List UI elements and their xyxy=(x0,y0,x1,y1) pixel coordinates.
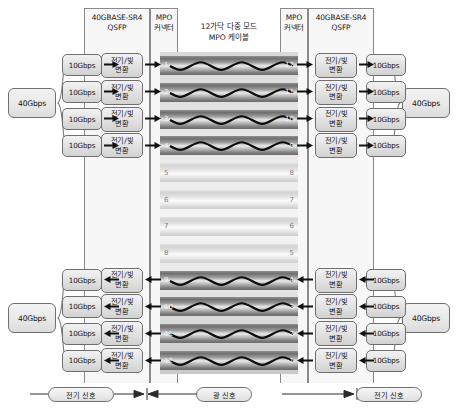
mpo-left-title-line2: 커넥터 xyxy=(150,23,178,33)
converter-box-bottom_right-0-line: 전기/빛 xyxy=(325,270,348,280)
fiber-number-right-4: 4 xyxy=(290,277,294,284)
converter-box-top_right-3-line: 변환 xyxy=(325,146,348,156)
fiber-strand-9: 94 xyxy=(160,271,298,290)
arrow-converter-to-lane-bottom_right-3 xyxy=(359,357,374,364)
converter-box-bottom_right-1-line: 변환 xyxy=(325,307,348,317)
fiber-number-right-7: 7 xyxy=(290,196,294,203)
diagram-canvas: 40GBASE-SR4 QSFP MPO 커넥터 12가닥 다중 모드 MPO … xyxy=(0,0,458,409)
arrow-converter-to-cable-bottom_left-0 xyxy=(145,276,161,283)
qsfp-right-title: 40GBASE-SR4 QSFP xyxy=(308,13,374,32)
arrow-lane-to-converter-top_left-0 xyxy=(104,61,119,68)
mpo-right-title-line2: 커넥터 xyxy=(280,23,308,33)
lane-box-bottom_left-2: 10Gbps xyxy=(62,323,102,345)
arrow-cable-to-converter-top_right-3 xyxy=(297,142,313,149)
arrow-converter-to-lane-top_right-1 xyxy=(359,88,374,95)
mpo-right-title-line1: MPO xyxy=(280,13,308,23)
converter-box-top_right-1-line: 변환 xyxy=(325,92,348,102)
fiber-number-right-2: 2 xyxy=(290,330,294,337)
fiber-number-left-5: 5 xyxy=(164,169,168,176)
fiber-strand-2: 211 xyxy=(160,83,298,102)
qsfp-right-title-line2: QSFP xyxy=(308,23,374,33)
qsfp-right-title-line1: 40GBASE-SR4 xyxy=(308,13,374,23)
arrow-cable-to-converter-top_right-0 xyxy=(297,61,313,68)
arrow-converter-to-cable-top_left-3 xyxy=(145,142,161,149)
qsfp-left-title-line1: 40GBASE-SR4 xyxy=(84,13,150,23)
converter-box-bottom_right-1-line: 전기/빛 xyxy=(325,297,348,307)
arrow-converter-to-cable-top_left-0 xyxy=(145,61,161,68)
lane-box-top_left-3: 10Gbps xyxy=(62,135,102,157)
converter-box-top_right-1-line: 전기/빛 xyxy=(325,83,348,93)
arrow-converter-to-lane-bottom_right-1 xyxy=(359,303,374,310)
fiber-strand-3: 310 xyxy=(160,110,298,129)
lane-box-bottom_left-3: 10Gbps xyxy=(62,350,102,372)
fiber-number-left-7: 7 xyxy=(164,223,168,230)
mpo-cable-body: 112211310495867768594103112121 xyxy=(160,52,298,374)
converter-box-top_right-3: 전기/빛변환 xyxy=(315,133,357,158)
fiber-number-right-5: 5 xyxy=(290,250,294,257)
mpo-left-title: MPO 커넥터 xyxy=(150,13,178,32)
converter-box-top_right-2-line: 변환 xyxy=(325,119,348,129)
arrow-lane-to-converter-top_left-1 xyxy=(104,88,119,95)
arrow-lane-to-converter-top_left-3 xyxy=(104,142,119,149)
arrow-cable-to-converter-top_right-2 xyxy=(297,115,313,122)
fiber-strand-8: 85 xyxy=(160,244,298,263)
converter-box-bottom_right-1: 전기/빛변환 xyxy=(315,294,357,319)
converter-box-bottom_right-3-line: 전기/빛 xyxy=(325,351,348,361)
arrow-cable-to-converter-bottom_right-0 xyxy=(297,276,313,283)
arrow-lane-to-converter-bottom_left-1 xyxy=(104,303,119,310)
fiber-number-left-8: 8 xyxy=(164,250,168,257)
fiber-number-left-1: 1 xyxy=(164,62,168,69)
mpo-left-title-line1: MPO xyxy=(150,13,178,23)
arrow-converter-to-lane-bottom_right-0 xyxy=(359,276,374,283)
arrow-converter-to-cable-top_left-2 xyxy=(145,115,161,122)
arrow-converter-to-cable-bottom_left-2 xyxy=(145,330,161,337)
converter-box-bottom_right-0: 전기/빛변환 xyxy=(315,268,357,293)
fiber-strand-6: 67 xyxy=(160,190,298,209)
converter-box-top_right-2: 전기/빛변환 xyxy=(315,107,357,132)
aggregate-right-bottom: 40Gbps xyxy=(402,303,450,333)
legend-electrical-right: 전기 신호 xyxy=(356,387,422,402)
arrow-cable-to-converter-bottom_right-3 xyxy=(297,357,313,364)
arrow-lane-to-converter-bottom_left-0 xyxy=(104,276,119,283)
fiber-number-right-11: 11 xyxy=(285,89,294,96)
fiber-number-right-10: 10 xyxy=(285,116,294,123)
qsfp-left-title-line2: QSFP xyxy=(84,23,150,33)
arrow-converter-to-lane-top_right-0 xyxy=(359,61,374,68)
arrow-converter-to-cable-bottom_left-1 xyxy=(145,303,161,310)
arrow-cable-to-converter-top_right-1 xyxy=(297,88,313,95)
fiber-strand-1: 112 xyxy=(160,56,298,75)
converter-box-bottom_right-0-line: 변환 xyxy=(325,280,348,290)
cable-title-line1: 12가닥 다중 모드 xyxy=(182,22,276,33)
arrow-converter-to-cable-top_left-1 xyxy=(145,88,161,95)
cable-title-line2: MPO 케이블 xyxy=(182,33,276,44)
qsfp-left-title: 40GBASE-SR4 QSFP xyxy=(84,13,150,32)
fiber-strand-7: 76 xyxy=(160,217,298,236)
legend-optical-center: 광 신호 xyxy=(196,387,252,402)
fiber-number-left-2: 2 xyxy=(164,89,168,96)
converter-box-top_right-1: 전기/빛변환 xyxy=(315,80,357,105)
arrow-cable-to-converter-bottom_right-2 xyxy=(297,330,313,337)
lane-box-top_left-2: 10Gbps xyxy=(62,108,102,130)
converter-box-top_right-2-line: 전기/빛 xyxy=(325,109,348,119)
lane-box-top_left-1: 10Gbps xyxy=(62,81,102,103)
aggregate-left-bottom: 40Gbps xyxy=(8,303,56,333)
fiber-number-right-6: 6 xyxy=(290,223,294,230)
aggregate-right-top: 40Gbps xyxy=(402,88,450,118)
arrow-converter-to-lane-top_right-3 xyxy=(359,142,374,149)
converter-box-bottom_right-3-line: 변환 xyxy=(325,361,348,371)
converter-box-top_right-3-line: 전기/빛 xyxy=(325,136,348,146)
lane-box-bottom_left-0: 10Gbps xyxy=(62,269,102,291)
arrow-converter-to-lane-top_right-2 xyxy=(359,115,374,122)
fiber-number-right-1: 1 xyxy=(290,357,294,364)
converter-box-bottom_right-3: 전기/빛변환 xyxy=(315,348,357,373)
fiber-number-right-9: 9 xyxy=(290,142,294,149)
fiber-number-left-4: 4 xyxy=(164,142,168,149)
cable-title: 12가닥 다중 모드 MPO 케이블 xyxy=(182,22,276,43)
fiber-number-left-11: 11 xyxy=(164,330,173,337)
arrow-lane-to-converter-bottom_left-3 xyxy=(104,357,119,364)
fiber-number-left-6: 6 xyxy=(164,196,168,203)
lane-box-bottom_left-1: 10Gbps xyxy=(62,296,102,318)
converter-box-top_right-0-line: 전기/빛 xyxy=(325,56,348,66)
arrow-cable-to-converter-bottom_right-1 xyxy=(297,303,313,310)
mpo-right-title: MPO 커넥터 xyxy=(280,13,308,32)
